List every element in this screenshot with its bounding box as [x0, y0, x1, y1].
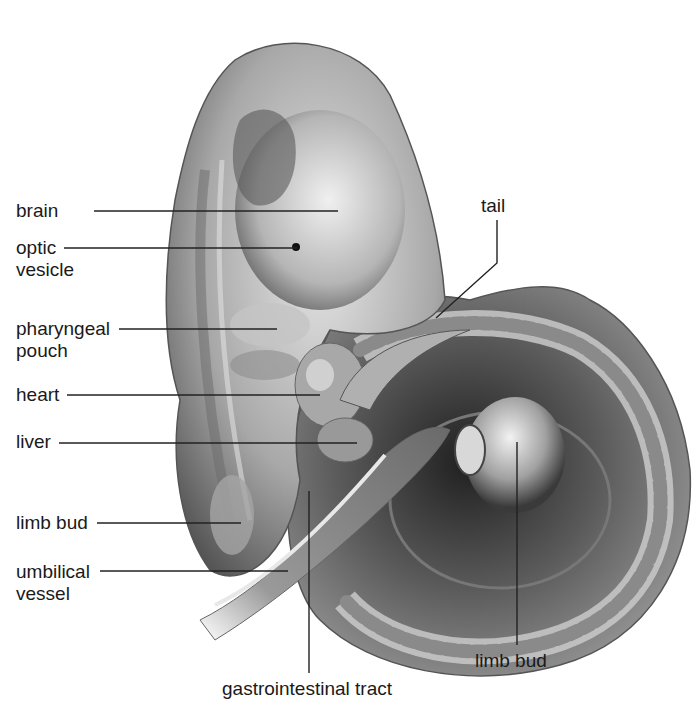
label-gastrointestinal-tract: gastrointestinal tract — [222, 678, 392, 700]
label-brain: brain — [16, 200, 58, 222]
label-pharyngeal-pouch: pharyngeal pouch — [16, 318, 110, 362]
label-limb-bud-lower: limb bud — [475, 650, 547, 672]
label-optic-vesicle: optic vesicle — [16, 237, 74, 281]
label-limb-bud-upper: limb bud — [16, 512, 88, 534]
label-tail: tail — [481, 195, 505, 217]
label-heart: heart — [16, 384, 59, 406]
label-liver: liver — [16, 431, 51, 453]
label-umbilical-vessel: umbilical vessel — [16, 561, 90, 605]
embryo-diagram: brain optic vesicle pharyngeal pouch hea… — [0, 0, 695, 701]
